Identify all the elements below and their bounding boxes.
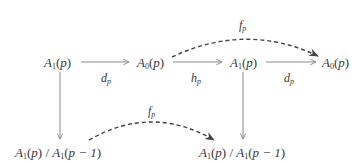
node-subscript: 0: [330, 62, 334, 71]
quotient-separator: /: [42, 145, 52, 160]
diagram-edges: [0, 0, 364, 164]
quotient-separator: /: [226, 145, 236, 160]
edge-label-f-p-top: fp: [239, 19, 246, 33]
node-arg: p: [338, 55, 345, 70]
label-subscript: p: [242, 24, 246, 33]
node-a1-p-top-left: A1(p): [44, 56, 71, 71]
node-arg: p: [153, 55, 160, 70]
edge-label-d-p-right: dp: [284, 72, 294, 86]
node-arg: p − 1: [253, 145, 281, 160]
node-subscript: 1: [60, 152, 64, 161]
node-base: A: [199, 145, 207, 160]
node-base: A: [15, 145, 23, 160]
edge-f-p-bottom: [89, 122, 214, 140]
edge-label-d-p-left: dp: [101, 72, 111, 86]
edge-label-f-p-bottom: fp: [148, 105, 155, 119]
node-quotient-bottom-left: A1(p) / A1(p − 1): [15, 146, 101, 161]
node-arg: p: [31, 145, 38, 160]
node-arg: p − 1: [69, 145, 97, 160]
label-subscript: p: [151, 110, 155, 119]
node-base: A: [322, 55, 330, 70]
node-subscript: 1: [207, 152, 211, 161]
node-subscript: 1: [238, 62, 242, 71]
label-subscript: p: [197, 77, 201, 86]
node-arg: p: [246, 55, 253, 70]
node-arg: p: [60, 55, 67, 70]
node-a0-p-top-right: A0(p): [322, 56, 349, 71]
node-subscript: 1: [244, 152, 248, 161]
node-a1-p-top-right: A1(p): [230, 56, 257, 71]
node-subscript: 1: [23, 152, 27, 161]
node-quotient-bottom-right: A1(p) / A1(p − 1): [199, 146, 285, 161]
label-subscript: p: [290, 77, 294, 86]
node-base: A: [230, 55, 238, 70]
node-arg: p: [215, 145, 222, 160]
edge-label-h-p: hp: [191, 72, 201, 86]
node-subscript: 1: [52, 62, 56, 71]
label-subscript: p: [107, 77, 111, 86]
node-subscript: 0: [145, 62, 149, 71]
node-a0-p-top-left: A0(p): [137, 56, 164, 71]
node-base: A: [44, 55, 52, 70]
node-base: A: [137, 55, 145, 70]
commutative-diagram: A1(p) A0(p) A1(p) A0(p) A1(p) / A1(p − 1…: [0, 0, 364, 164]
